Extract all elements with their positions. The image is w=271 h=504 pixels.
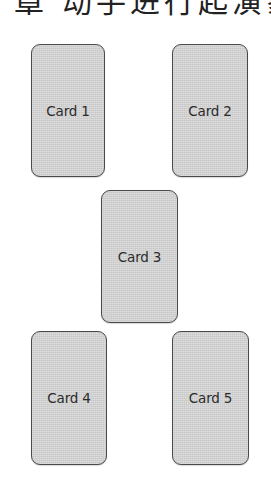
card-2: Card 2 bbox=[172, 44, 248, 177]
card-4-label: Card 4 bbox=[47, 390, 90, 406]
card-3: Card 3 bbox=[101, 190, 178, 323]
card-1: Card 1 bbox=[31, 44, 105, 177]
card-3-label: Card 3 bbox=[118, 249, 161, 265]
cropped-header-text: 章 动手进行起演象 bbox=[14, 0, 271, 17]
card-2-label: Card 2 bbox=[188, 103, 231, 119]
card-1-label: Card 1 bbox=[46, 103, 89, 119]
card-4: Card 4 bbox=[31, 331, 107, 465]
card-5: Card 5 bbox=[172, 331, 249, 465]
card-5-label: Card 5 bbox=[189, 390, 232, 406]
